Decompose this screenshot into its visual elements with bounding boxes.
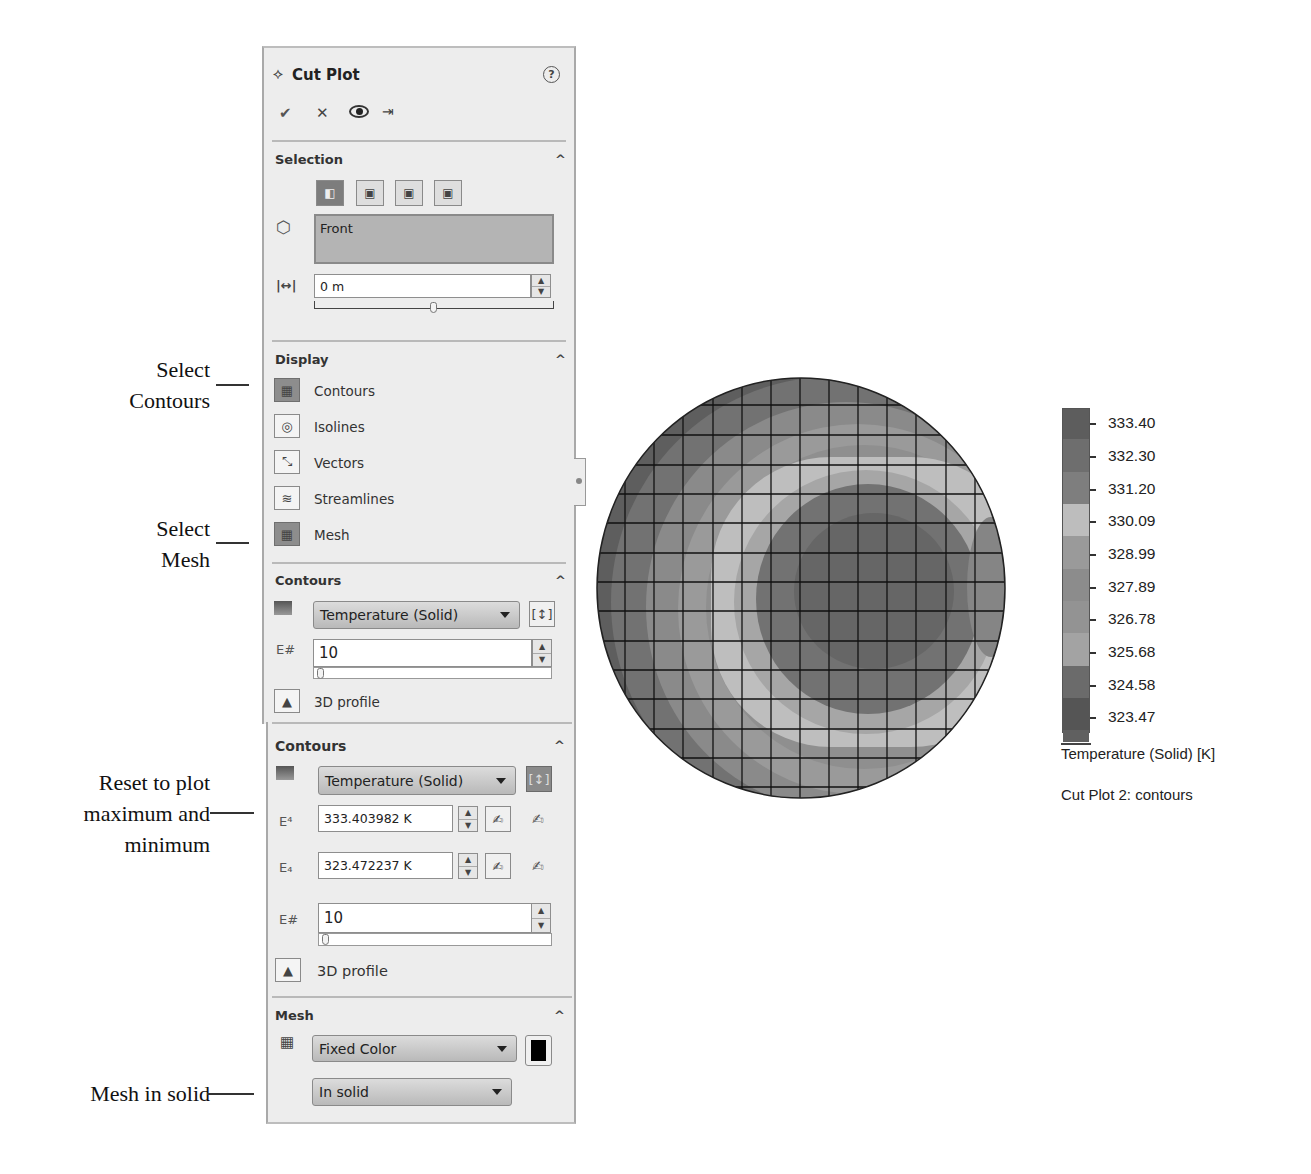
- mesh-color-picker[interactable]: [525, 1035, 552, 1066]
- mesh-section-title: Mesh: [275, 1008, 314, 1023]
- right-plane-icon: ▣: [442, 186, 453, 200]
- annotation-reset-max-min: Reset to plot maximum and minimum: [20, 767, 210, 860]
- annotation-leader: [216, 542, 249, 544]
- collapse-contours-icon[interactable]: ^: [555, 573, 566, 588]
- contours-section-title: Contours: [275, 573, 341, 588]
- levels-icon: E#: [279, 912, 298, 927]
- levels-spinner[interactable]: ▲▼: [532, 639, 552, 667]
- collapse-mesh-icon[interactable]: ^: [554, 1008, 565, 1023]
- divider: [272, 340, 566, 342]
- spin-up-icon[interactable]: ▲: [532, 275, 550, 287]
- panel-collapse-handle[interactable]: [574, 458, 586, 506]
- display-isolines[interactable]: ◎ Isolines: [274, 414, 534, 442]
- parameter-icon: [274, 601, 292, 615]
- levels-icon: E#: [276, 642, 295, 657]
- plane-selection-box[interactable]: Front: [314, 214, 554, 264]
- adjust-range-button[interactable]: [↕]: [529, 601, 555, 627]
- collapse-contours-icon[interactable]: ^: [554, 738, 565, 753]
- levels-slider-thumb[interactable]: [322, 934, 329, 945]
- contours-parameter-dropdown[interactable]: Temperature (Solid): [313, 601, 520, 629]
- 3d-profile-icon[interactable]: ▲: [274, 689, 300, 713]
- legend-tick: [1090, 685, 1096, 687]
- color-swatch: [531, 1040, 546, 1061]
- offset-slider-thumb[interactable]: [430, 302, 437, 313]
- levels-slider-track[interactable]: [313, 667, 552, 679]
- legend-tick: [1090, 554, 1096, 556]
- collapse-display-icon[interactable]: ^: [555, 352, 566, 367]
- mesh-color-mode-dropdown[interactable]: Fixed Color: [312, 1035, 517, 1062]
- plane-button-front[interactable]: ▣: [356, 180, 384, 206]
- levels-slider-track[interactable]: [318, 933, 552, 946]
- spin-up-icon[interactable]: ▲: [532, 904, 550, 919]
- levels-input[interactable]: 10: [313, 639, 532, 667]
- spin-down-icon[interactable]: ▼: [459, 820, 477, 832]
- spin-up-icon[interactable]: ▲: [459, 854, 477, 867]
- parameter-icon: [276, 766, 294, 780]
- collapse-selection-icon[interactable]: ^: [555, 152, 566, 167]
- reset-max-min[interactable]: ✍: [485, 806, 511, 832]
- 3d-profile-label[interactable]: 3D profile: [317, 963, 388, 979]
- max-value-spinner[interactable]: ▲▼: [458, 806, 478, 832]
- levels-input[interactable]: 10: [318, 903, 537, 933]
- legend-tick-label: 323.47: [1108, 708, 1155, 726]
- plane-button-reference[interactable]: ◧: [316, 180, 344, 206]
- adjust-range-button-active[interactable]: [↕]: [526, 766, 552, 792]
- plane-selection-icon: ⬡: [276, 217, 291, 237]
- legend-tick: [1090, 652, 1096, 654]
- spin-down-icon[interactable]: ▼: [459, 867, 477, 879]
- reset-min-secondary-icon[interactable]: ✍: [532, 858, 544, 874]
- plane-button-top[interactable]: ▣: [395, 180, 423, 206]
- spin-down-icon[interactable]: ▼: [532, 287, 550, 298]
- display-streamlines[interactable]: ≋ Streamlines: [274, 486, 534, 514]
- chevron-down-icon: [497, 1046, 507, 1052]
- contours-section-title: Contours: [275, 738, 346, 754]
- min-value-input[interactable]: 323.472237 K: [318, 852, 453, 879]
- offset-input[interactable]: 0 m: [314, 274, 531, 298]
- legend-title: Temperature (Solid) [K]: [1061, 745, 1215, 762]
- streamlines-icon: ≋: [274, 486, 300, 510]
- contours-parameter-dropdown[interactable]: Temperature (Solid): [318, 766, 516, 795]
- cancel-icon[interactable]: ✕: [316, 104, 329, 122]
- annotation-line-text: minimum: [20, 829, 210, 860]
- legend-tick: [1090, 423, 1096, 425]
- display-vectors[interactable]: ⤡ Vectors: [274, 450, 534, 478]
- dropdown-value: Fixed Color: [319, 1041, 396, 1057]
- offset-spinner[interactable]: ▲▼: [531, 274, 551, 298]
- 3d-profile-icon[interactable]: ▲: [275, 958, 301, 982]
- preview-eye-icon[interactable]: [349, 105, 369, 118]
- display-item-label: Streamlines: [314, 491, 394, 507]
- reset-min-icon: ✍: [493, 859, 504, 874]
- max-value-input[interactable]: 333.403982 K: [318, 805, 453, 832]
- divider: [272, 562, 566, 564]
- annotation-line-text: Contours: [60, 385, 210, 416]
- spin-down-icon[interactable]: ▼: [532, 919, 550, 933]
- mesh-icon: ▦: [274, 522, 300, 546]
- adjust-range-icon: [↕]: [531, 607, 552, 622]
- divider: [272, 140, 566, 142]
- spin-down-icon[interactable]: ▼: [533, 654, 551, 667]
- dropdown-value: In solid: [319, 1084, 369, 1100]
- mesh-location[interactable]: In solid: [312, 1078, 512, 1106]
- annotation-line-text: Select: [60, 354, 210, 385]
- reset-max-secondary-icon[interactable]: ✍: [532, 811, 544, 827]
- reset-min-button[interactable]: ✍: [485, 853, 511, 879]
- levels-spinner[interactable]: ▲▼: [531, 903, 551, 933]
- spin-up-icon[interactable]: ▲: [459, 807, 477, 820]
- ok-icon[interactable]: ✔: [279, 104, 292, 122]
- chevron-down-icon: [496, 778, 506, 784]
- divider: [272, 996, 572, 998]
- spin-up-icon[interactable]: ▲: [533, 640, 551, 654]
- min-value-spinner[interactable]: ▲▼: [458, 853, 478, 879]
- legend-tick-label: 325.68: [1108, 643, 1155, 661]
- annotation-line-text: Reset to plot: [20, 767, 210, 798]
- pin-icon[interactable]: ⇥: [382, 103, 394, 119]
- help-icon[interactable]: ?: [543, 66, 560, 83]
- plane-button-right[interactable]: ▣: [434, 180, 462, 206]
- min-value-icon: E₄: [279, 860, 292, 875]
- display-contours[interactable]: ▦ Contours: [274, 378, 534, 406]
- cube-icon: ◧: [324, 186, 335, 200]
- levels-slider-thumb[interactable]: [317, 668, 324, 679]
- legend-color-bar: [1062, 408, 1090, 733]
- 3d-profile-label[interactable]: 3D profile: [314, 694, 380, 710]
- display-mesh[interactable]: ▦ Mesh: [274, 522, 534, 550]
